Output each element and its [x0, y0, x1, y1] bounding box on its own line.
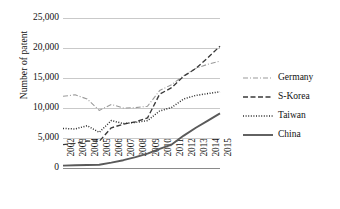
y-axis-tick-label: 15,000 — [5, 73, 59, 83]
legend-item-label: Germany — [278, 73, 313, 83]
legend-item-label: S-Korea — [278, 92, 310, 102]
legend-swatch-icon — [243, 73, 273, 83]
legend-item-label: Taiwan — [278, 111, 306, 121]
series-line-taiwan — [63, 92, 220, 133]
plot-area — [63, 18, 220, 168]
legend-swatch-icon — [243, 130, 273, 140]
y-axis-tick-label: 0 — [5, 163, 59, 173]
legend-item-germany[interactable]: Germany — [243, 68, 338, 87]
y-axis-tick-label: 10,000 — [5, 103, 59, 113]
legend-item-s-korea[interactable]: S-Korea — [243, 87, 338, 106]
gridline — [63, 168, 220, 169]
y-axis-tick-label: 25,000 — [5, 13, 59, 23]
series-lines — [63, 18, 220, 168]
y-axis-tick-label: 20,000 — [5, 43, 59, 53]
legend-item-china[interactable]: China — [243, 125, 338, 144]
x-axis-tick-label: 2015 — [224, 138, 233, 172]
y-axis-tick-label: 5,000 — [5, 133, 59, 143]
legend-swatch-icon — [243, 111, 273, 121]
legend-item-label: China — [278, 130, 301, 140]
legend-item-taiwan[interactable]: Taiwan — [243, 106, 338, 125]
series-line-s-korea — [63, 46, 220, 144]
series-line-germany — [63, 61, 220, 110]
legend-swatch-icon — [243, 92, 273, 102]
legend: GermanyS-KoreaTaiwanChina — [243, 68, 338, 144]
patent-line-chart: Number of patent 05,00010,00015,00020,00… — [0, 0, 340, 209]
